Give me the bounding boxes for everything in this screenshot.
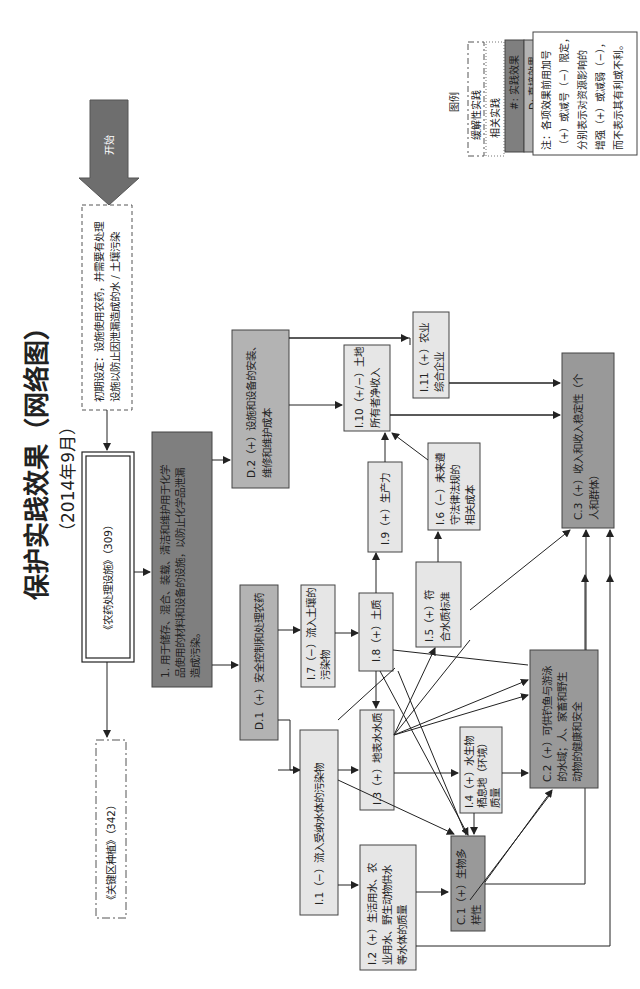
legend-note-line1: 注：各项效果前用加号 xyxy=(540,50,552,150)
legend-note-line4: 增强（+）或减弱（−）， xyxy=(594,38,606,150)
legend-note-line5: 而不表示其有利或不利。 xyxy=(612,40,624,150)
legend-note-line2: （+）或减号（−）限定， xyxy=(558,33,570,150)
legend-note-line3: 分别表示对资源影响的 xyxy=(576,50,588,150)
legend-note-text-block: 注：各项效果前用加号 （+）或减号（−）限定， 分别表示对资源影响的 增强（+）… xyxy=(533,32,637,155)
